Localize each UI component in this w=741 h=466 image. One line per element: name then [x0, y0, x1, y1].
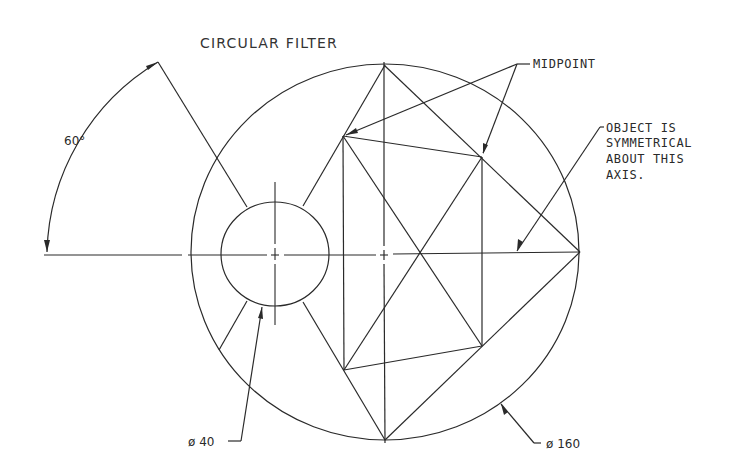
symmetry-note-line-1: OBJECT IS — [606, 121, 676, 135]
symmetry-note-line-4: AXIS. — [606, 168, 645, 182]
lower-left-radial-line — [219, 301, 247, 350]
large-diameter-dimension: ø 160 — [501, 404, 580, 451]
technical-drawing: CIRCULAR FILTER — [0, 0, 741, 466]
angle-label: 60° — [64, 134, 85, 148]
upper-right-radial-line — [303, 65, 385, 206]
symmetry-note-line-2: SYMMETRICAL — [606, 136, 692, 150]
small-diameter-dimension: ø 40 — [188, 307, 263, 449]
large-diameter-label: ø 160 — [546, 437, 580, 451]
small-diameter-label: ø 40 — [188, 435, 214, 449]
symmetry-note: OBJECT IS SYMMETRICAL ABOUT THIS AXIS. — [517, 121, 692, 251]
midpoint-label: MIDPOINT — [533, 57, 596, 71]
construction-line-left-vertical — [343, 136, 344, 370]
horizontal-axis — [44, 252, 580, 255]
angle-dimension: 60° — [44, 62, 158, 252]
symmetry-note-line-3: ABOUT THIS — [606, 152, 684, 166]
drawing-title: CIRCULAR FILTER — [200, 35, 338, 51]
